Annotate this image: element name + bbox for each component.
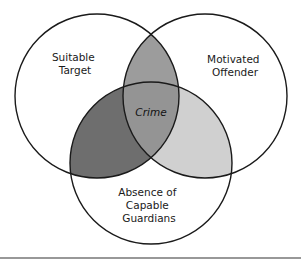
label-line: Motivated — [207, 53, 259, 65]
label-motivated-offender: Motivated Offender — [207, 53, 263, 78]
label-capable-guardians: Absence of Capable Guardians — [118, 186, 179, 224]
label-line: Capable — [126, 199, 169, 211]
label-suitable-target: Suitable Target — [52, 51, 98, 76]
label-line: Absence of — [118, 186, 176, 198]
label-line: Target — [58, 64, 91, 76]
label-line: Suitable — [52, 51, 95, 63]
label-line: Guardians — [122, 212, 176, 224]
venn-diagram: Suitable Target Motivated Offender Absen… — [0, 0, 301, 261]
label-line: Offender — [212, 66, 259, 78]
label-crime: Crime — [135, 106, 166, 118]
